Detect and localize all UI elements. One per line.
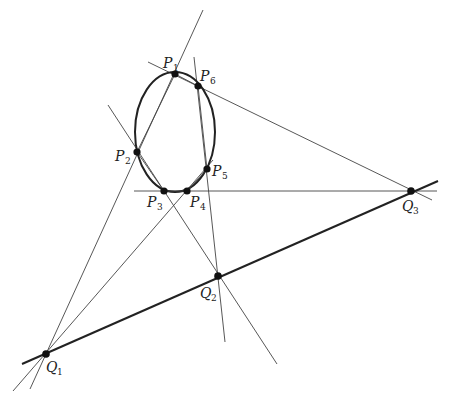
line-p2-p3 — [108, 105, 277, 364]
label-p6-main: P — [199, 68, 210, 84]
label-p4: P 4 — [189, 194, 206, 212]
point-p2 — [133, 148, 140, 155]
pascal-line — [22, 181, 438, 364]
label-p5-sub: 5 — [222, 171, 228, 181]
point-p5 — [203, 165, 210, 172]
label-p4-sub: 4 — [200, 202, 206, 212]
label-p5-main: P — [211, 163, 222, 179]
point-q1 — [42, 350, 50, 358]
label-q3-sub: 3 — [413, 206, 419, 216]
line-p4-p5 — [13, 160, 213, 391]
label-p4-main: P — [189, 194, 200, 210]
label-p3-main: P — [146, 194, 157, 210]
label-q1-sub: 1 — [57, 367, 63, 377]
label-p1-sub: 1 — [173, 63, 179, 73]
label-p6: P 6 — [199, 68, 216, 86]
label-q2: Q 2 — [200, 285, 217, 303]
point-q2 — [214, 272, 222, 280]
label-q3: Q 3 — [402, 198, 419, 216]
pascal-diagram: P 1 P 2 P 3 P 4 P 5 P 6 Q 1 Q 2 Q 3 — [0, 0, 453, 409]
label-p1: P 1 — [162, 55, 179, 73]
label-p3-sub: 3 — [157, 202, 163, 212]
label-p6-sub: 6 — [210, 76, 216, 86]
label-q1: Q 1 — [46, 359, 63, 377]
label-p5: P 5 — [211, 163, 228, 181]
label-p1-main: P — [162, 55, 173, 71]
label-q2-sub: 2 — [211, 293, 217, 303]
point-q3 — [407, 187, 415, 195]
label-p2: P 2 — [114, 148, 131, 166]
label-p2-sub: 2 — [125, 156, 131, 166]
label-p2-main: P — [114, 148, 125, 164]
line-p6-p1 — [148, 62, 432, 200]
point-p3 — [160, 187, 167, 194]
label-p3: P 3 — [146, 194, 163, 212]
